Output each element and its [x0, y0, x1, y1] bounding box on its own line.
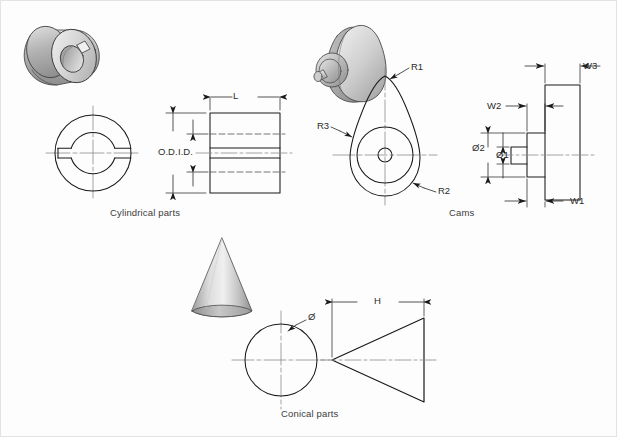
cone-side-view	[320, 299, 438, 402]
dimension-W2	[506, 104, 563, 131]
cone-base-ellipse	[192, 305, 252, 317]
dimension-H	[332, 299, 424, 357]
label-R2: R2	[438, 186, 450, 196]
leader-R1	[390, 68, 409, 79]
label-OD: O.D.	[158, 147, 178, 157]
caption-cams: Cams	[449, 208, 474, 218]
label-R1: R1	[411, 62, 423, 72]
label-H: H	[374, 296, 381, 306]
leader-R2	[413, 183, 436, 192]
cam-shaft-pin	[511, 147, 527, 164]
cone-isometric-solid	[192, 238, 252, 317]
cone-front-view	[232, 311, 330, 409]
label-ID: I.D.	[178, 147, 193, 157]
caption-cylindrical-parts: Cylindrical parts	[110, 208, 180, 218]
label-D1: Ø1	[496, 150, 509, 160]
cylindrical-side-view	[166, 97, 292, 193]
leader-R3	[331, 127, 352, 137]
cam-isometric-solid	[314, 25, 386, 102]
cylindrical-front-view	[46, 106, 140, 200]
cylinder-body-rect	[210, 113, 280, 193]
label-W1: W1	[570, 196, 584, 206]
dimension-L	[210, 97, 280, 110]
label-diameter: Ø	[308, 312, 315, 322]
caption-conical-parts: Conical parts	[281, 409, 338, 419]
cam-side-view	[481, 64, 600, 207]
label-W3: W3	[583, 61, 597, 71]
label-D2: Ø2	[472, 143, 485, 153]
cylindrical-isometric-solid	[21, 21, 103, 88]
dimension-W1	[505, 179, 563, 207]
technical-drawing-figure: L O.D. I.D. Cylindrical parts R1 R2 R3 W…	[0, 0, 617, 437]
drawing-canvas	[0, 0, 617, 437]
label-W2: W2	[487, 101, 501, 111]
cam-body-rect	[545, 85, 580, 200]
label-R3: R3	[317, 121, 329, 131]
label-L: L	[233, 91, 238, 101]
